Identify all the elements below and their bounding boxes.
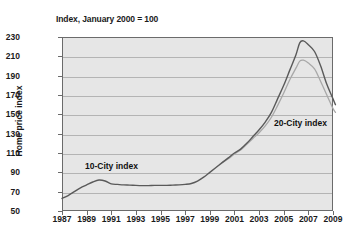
annotation-10-city-index: 10-City index xyxy=(85,161,138,171)
home-price-index-chart: Index, January 2000 = 100 Home price ind… xyxy=(0,0,358,243)
annotation-20-city-index: 20-City index xyxy=(274,118,327,128)
series-line-20-city xyxy=(222,60,335,163)
